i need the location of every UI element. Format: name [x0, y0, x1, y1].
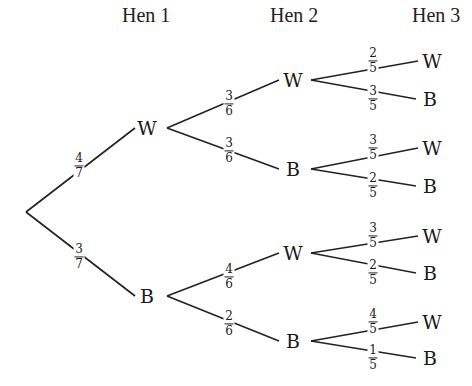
denominator: 5 — [369, 149, 377, 162]
prob-hen3-0: 25 — [368, 47, 379, 74]
node-hen3-0: W — [422, 52, 442, 71]
numerator: 3 — [75, 243, 83, 256]
numerator: 3 — [225, 137, 233, 150]
node-hen3-2: W — [422, 139, 442, 158]
numerator: 3 — [369, 85, 377, 98]
numerator: 1 — [369, 344, 377, 357]
numerator: 4 — [369, 308, 377, 321]
tree-branches — [0, 0, 472, 386]
prob-hen3-7: 15 — [368, 344, 379, 371]
prob-hen3-2: 35 — [368, 134, 379, 161]
numerator: 3 — [225, 90, 233, 103]
denominator: 5 — [369, 62, 377, 75]
prob-hen3-1: 35 — [368, 85, 379, 112]
denominator: 5 — [369, 274, 377, 287]
node-hen3-6: W — [422, 313, 442, 332]
prob-hen3-6: 45 — [368, 308, 379, 335]
numerator: 3 — [369, 134, 377, 147]
node-hen3-3: B — [423, 177, 437, 196]
numerator: 2 — [369, 47, 377, 60]
node-hen3-4: W — [422, 227, 442, 246]
denominator: 5 — [369, 187, 377, 200]
prob-hen3-5: 25 — [368, 259, 379, 286]
prob-hen2-1: 36 — [224, 137, 235, 164]
denominator: 6 — [225, 278, 233, 291]
denominator: 7 — [75, 167, 83, 180]
denominator: 7 — [75, 258, 83, 271]
numerator: 4 — [75, 152, 83, 165]
numerator: 2 — [369, 172, 377, 185]
node-hen2-3: B — [286, 332, 300, 351]
node-hen3-5: B — [423, 264, 437, 283]
numerator: 3 — [369, 222, 377, 235]
node-hen1-w: W — [137, 119, 157, 138]
denominator: 5 — [369, 359, 377, 372]
prob-hen1-b: 37 — [74, 243, 85, 270]
denominator: 6 — [225, 152, 233, 165]
node-hen2-2: W — [283, 244, 303, 263]
denominator: 6 — [225, 105, 233, 118]
denominator: 5 — [369, 323, 377, 336]
node-hen3-7: B — [423, 349, 437, 368]
prob-hen2-2: 46 — [224, 263, 235, 290]
numerator: 4 — [225, 263, 233, 276]
prob-hen1-w: 47 — [74, 152, 85, 179]
numerator: 2 — [369, 259, 377, 272]
node-hen1-b: B — [140, 287, 154, 306]
node-hen3-1: B — [423, 90, 437, 109]
denominator: 5 — [369, 237, 377, 250]
prob-hen2-3: 26 — [224, 310, 235, 337]
denominator: 5 — [369, 100, 377, 113]
prob-hen2-0: 36 — [224, 90, 235, 117]
prob-hen3-4: 35 — [368, 222, 379, 249]
node-hen2-0: W — [283, 71, 303, 90]
prob-hen3-3: 25 — [368, 172, 379, 199]
numerator: 2 — [225, 310, 233, 323]
node-hen2-1: B — [286, 160, 300, 179]
denominator: 6 — [225, 325, 233, 338]
